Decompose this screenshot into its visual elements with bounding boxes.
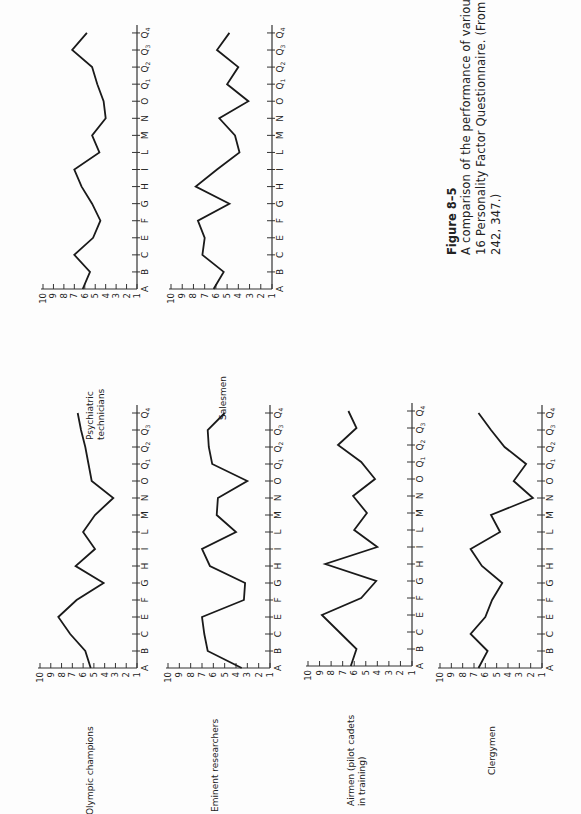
factor-label: M bbox=[545, 511, 555, 519]
score-tick-label: 5 bbox=[89, 672, 99, 677]
factor-label: O bbox=[140, 477, 150, 484]
factor-label: G bbox=[275, 200, 285, 207]
score-tick-label: 9 bbox=[446, 672, 456, 677]
score-tick-label: 10 bbox=[35, 672, 45, 683]
score-tick-label: 7 bbox=[200, 293, 210, 298]
factor-label: H bbox=[273, 563, 283, 570]
factor-label: Q1 bbox=[140, 79, 151, 90]
factor-label: Q2 bbox=[140, 441, 151, 452]
factor-label: Q4 bbox=[415, 405, 426, 416]
score-tick-label: 8 bbox=[188, 293, 198, 298]
score-tick-label: 10 bbox=[435, 672, 445, 683]
factor-label: L bbox=[545, 529, 555, 534]
factor-label: Q1 bbox=[140, 458, 151, 469]
factor-label: L bbox=[273, 529, 283, 534]
factor-label: Q1 bbox=[275, 79, 286, 90]
score-tick-label: 5 bbox=[90, 293, 100, 298]
factor-label: A bbox=[273, 664, 283, 671]
factor-label: E bbox=[140, 614, 150, 620]
factor-label: N bbox=[275, 115, 285, 122]
score-tick-label: 6 bbox=[480, 672, 490, 677]
factor-label: Q1 bbox=[415, 456, 426, 467]
factor-label: L bbox=[275, 150, 285, 155]
score-tick-label: 10 bbox=[163, 672, 173, 683]
factor-label: A bbox=[140, 664, 150, 671]
score-tick-label: 7 bbox=[69, 293, 79, 298]
factor-label: A bbox=[275, 285, 285, 292]
factor-label: C bbox=[140, 631, 150, 637]
factor-label: N bbox=[415, 493, 425, 500]
score-tick-label: 3 bbox=[245, 293, 255, 298]
score-tick-label: 9 bbox=[177, 293, 187, 298]
factor-label: L bbox=[415, 527, 425, 532]
score-tick-label: 8 bbox=[458, 672, 468, 677]
score-tick-label: 4 bbox=[231, 672, 241, 677]
factor-label: G bbox=[140, 200, 150, 207]
factor-label: H bbox=[275, 183, 285, 190]
factor-label: N bbox=[273, 495, 283, 502]
score-tick-label: 2 bbox=[254, 672, 264, 677]
score-tick-label: 1 bbox=[267, 293, 277, 298]
factor-label: I bbox=[415, 546, 425, 549]
score-tick-label: 2 bbox=[526, 672, 536, 677]
factor-label: I bbox=[545, 548, 555, 551]
score-tick-label: 9 bbox=[315, 670, 325, 675]
factor-label: B bbox=[273, 648, 283, 654]
factor-label: Q3 bbox=[273, 424, 284, 435]
factor-label: C bbox=[140, 252, 150, 258]
factor-label: L bbox=[140, 150, 150, 155]
score-tick-label: 5 bbox=[220, 672, 230, 677]
factor-label: Q3 bbox=[545, 424, 556, 435]
score-tick-label: 1 bbox=[537, 672, 547, 677]
factor-label: Q4 bbox=[273, 407, 284, 418]
factor-label: Q2 bbox=[273, 441, 284, 452]
score-tick-label: 6 bbox=[211, 293, 221, 298]
factor-label: N bbox=[140, 115, 150, 122]
score-tick-label: 7 bbox=[469, 672, 479, 677]
factor-label: G bbox=[415, 577, 425, 584]
score-tick-label: 2 bbox=[256, 293, 266, 298]
score-tick-label: 5 bbox=[492, 672, 502, 677]
score-tick-label: 3 bbox=[110, 672, 120, 677]
factor-label: M bbox=[275, 131, 285, 139]
factor-label: Q2 bbox=[140, 61, 151, 72]
score-tick-label: 8 bbox=[326, 670, 336, 675]
profile-line bbox=[202, 413, 247, 668]
score-tick-label: 6 bbox=[208, 672, 218, 677]
factor-label: I bbox=[140, 168, 150, 171]
factor-label: H bbox=[415, 561, 425, 568]
score-tick-label: 6 bbox=[80, 293, 90, 298]
score-tick-label: 5 bbox=[222, 293, 232, 298]
score-tick-label: 10 bbox=[303, 670, 313, 681]
score-tick-label: 9 bbox=[48, 293, 58, 298]
factor-label: O bbox=[545, 477, 555, 484]
profile-chart-1: 12345678910ABCEFGHILMNOQ1Q2Q3Q4 bbox=[166, 25, 286, 304]
profile-chart-3: 12345678910ABCEFGHILMNOQ1Q2Q3Q4 bbox=[163, 405, 284, 683]
factor-label: B bbox=[415, 646, 425, 652]
factor-label: E bbox=[140, 235, 150, 241]
score-tick-label: 3 bbox=[514, 672, 524, 677]
factor-label: Q4 bbox=[275, 27, 286, 38]
score-tick-label: 7 bbox=[338, 670, 348, 675]
factor-label: Q2 bbox=[275, 61, 286, 72]
factor-label: O bbox=[273, 477, 283, 484]
score-tick-label: 8 bbox=[57, 672, 67, 677]
group-label: Psychiatrictechnicians bbox=[85, 388, 106, 440]
caption-line-1: A comparison of the performance of vario… bbox=[459, 0, 474, 255]
factor-label: E bbox=[545, 614, 555, 620]
score-tick-label: 8 bbox=[59, 293, 69, 298]
group-label: Eminent researchers bbox=[210, 719, 220, 812]
factor-label: M bbox=[140, 131, 150, 139]
factor-label: B bbox=[140, 269, 150, 275]
score-tick-label: 1 bbox=[132, 293, 142, 298]
factor-label: H bbox=[140, 183, 150, 190]
score-tick-label: 4 bbox=[372, 670, 382, 675]
factor-label: B bbox=[545, 648, 555, 654]
score-tick-label: 4 bbox=[503, 672, 513, 677]
factor-label: Q3 bbox=[140, 44, 151, 55]
factor-label: Q2 bbox=[545, 441, 556, 452]
factor-label: Q4 bbox=[545, 407, 556, 418]
factor-label: Q4 bbox=[140, 27, 151, 38]
factor-label: M bbox=[415, 509, 425, 517]
factor-label: O bbox=[140, 98, 150, 105]
